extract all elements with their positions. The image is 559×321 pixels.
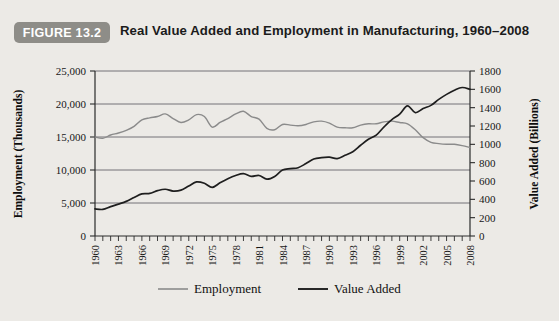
x-tick-label: 1993 bbox=[348, 245, 359, 266]
x-axis-ticks: 1960196319661969197219751978198119841987… bbox=[90, 236, 476, 266]
x-tick-label: 1999 bbox=[395, 245, 406, 266]
x-tick-label: 1969 bbox=[160, 245, 171, 266]
x-tick-label: 1978 bbox=[231, 245, 242, 266]
right-tick-label: 1600 bbox=[479, 83, 502, 95]
left-axis-ticks: 05,00010,00015,00020,00025,000 bbox=[56, 65, 95, 242]
y-axis-left-title: Employment (Thousands) bbox=[12, 90, 25, 219]
axes-group bbox=[95, 71, 470, 236]
legend: EmploymentValue Added bbox=[158, 281, 401, 296]
figure-header: FIGURE 13.2 Real Value Added and Employm… bbox=[0, 0, 559, 55]
x-tick-label: 1987 bbox=[301, 245, 312, 266]
x-tick-label: 1966 bbox=[137, 245, 148, 266]
x-tick-label: 1981 bbox=[254, 245, 265, 266]
figure-container: FIGURE 13.2 Real Value Added and Employm… bbox=[0, 0, 559, 321]
y-axis-right-title: Value Added (Billions) bbox=[528, 98, 541, 209]
x-tick-label: 1990 bbox=[324, 245, 335, 266]
series-line-value-added bbox=[95, 87, 470, 209]
right-tick-label: 1000 bbox=[479, 138, 502, 150]
x-tick-label: 1996 bbox=[371, 245, 382, 266]
right-tick-label: 1400 bbox=[479, 102, 502, 114]
right-tick-label: 400 bbox=[479, 193, 496, 205]
left-tick-label: 5,000 bbox=[61, 197, 86, 209]
x-tick-label: 1960 bbox=[90, 245, 101, 266]
legend-label-employment: Employment bbox=[194, 281, 262, 296]
figure-number-badge: FIGURE 13.2 bbox=[14, 22, 110, 43]
x-tick-label: 1972 bbox=[184, 245, 195, 266]
right-tick-label: 0 bbox=[479, 230, 485, 242]
series-line-employment bbox=[95, 111, 470, 147]
left-tick-label: 20,000 bbox=[56, 98, 87, 110]
left-tick-label: 15,000 bbox=[56, 131, 87, 143]
x-tick-label: 1975 bbox=[207, 245, 218, 266]
right-tick-label: 1800 bbox=[479, 65, 502, 77]
gridlines-group bbox=[95, 71, 470, 203]
x-tick-label: 1984 bbox=[278, 244, 289, 266]
left-tick-label: 25,000 bbox=[56, 65, 87, 77]
right-tick-label: 1200 bbox=[479, 120, 502, 132]
chart-canvas: 05,00010,00015,00020,00025,000 020040060… bbox=[0, 55, 559, 321]
right-tick-label: 800 bbox=[479, 157, 496, 169]
figure-title: Real Value Added and Employment in Manuf… bbox=[120, 23, 529, 38]
series-group bbox=[95, 87, 470, 209]
legend-label-value-added: Value Added bbox=[334, 281, 401, 296]
right-tick-label: 200 bbox=[479, 212, 496, 224]
line-chart: 05,00010,00015,00020,00025,000 020040060… bbox=[0, 55, 559, 321]
right-axis-ticks: 020040060080010001200140016001800 bbox=[470, 65, 502, 242]
right-tick-label: 600 bbox=[479, 175, 496, 187]
x-tick-label: 1963 bbox=[113, 245, 124, 266]
left-tick-label: 10,000 bbox=[56, 164, 87, 176]
x-tick-label: 2002 bbox=[418, 245, 429, 266]
x-tick-label: 2008 bbox=[465, 245, 476, 266]
left-tick-label: 0 bbox=[81, 230, 87, 242]
x-tick-label: 2005 bbox=[442, 245, 453, 266]
